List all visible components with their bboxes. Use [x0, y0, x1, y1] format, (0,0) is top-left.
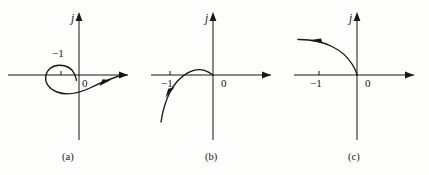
plot-panel-a: j −1 0 (a) — [0, 0, 143, 175]
x-axis-arrowhead-c — [405, 72, 414, 79]
y-axis-label-a: j — [71, 13, 74, 25]
caption-c: (c) — [348, 152, 360, 163]
plot-a-canvas — [0, 0, 143, 175]
y-axis-arrowhead-b — [210, 12, 217, 21]
tick-label-minus-one-c: −1 — [310, 78, 322, 89]
origin-label-a: 0 — [82, 78, 88, 89]
y-axis-arrowhead-a — [76, 12, 83, 21]
plot-panel-c: j −1 0 (c) — [286, 0, 429, 175]
y-axis-label-c: j — [349, 13, 352, 25]
nyquist-curve-c — [298, 39, 357, 75]
nyquist-figure: j −1 0 (a) j −1 0 (b) — [0, 0, 429, 175]
tick-label-minus-one-a: −1 — [52, 48, 64, 59]
origin-label-b: 0 — [221, 78, 227, 89]
plot-panel-b: j −1 0 (b) — [143, 0, 286, 175]
tick-label-minus-one-b: −1 — [161, 78, 173, 89]
plot-c-canvas — [286, 0, 429, 175]
x-axis-arrowhead-b — [262, 72, 271, 79]
caption-a: (a) — [62, 152, 74, 163]
origin-label-c: 0 — [365, 78, 371, 89]
y-axis-label-b: j — [205, 13, 208, 25]
curve-arrowhead-a — [100, 79, 111, 86]
y-axis-arrowhead-c — [354, 12, 361, 21]
caption-b: (b) — [205, 152, 217, 163]
